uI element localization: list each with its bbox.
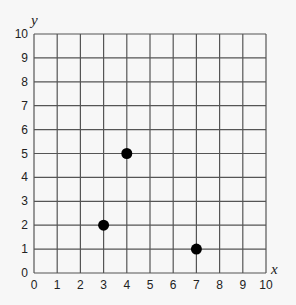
scatter-plot: 012345678910 012345678910 x y	[0, 0, 296, 305]
x-tick-label: 9	[239, 278, 246, 292]
x-tick-label: 6	[170, 278, 177, 292]
x-tick-label: 2	[77, 278, 84, 292]
data-point	[191, 244, 202, 255]
x-tick-label: 8	[216, 278, 223, 292]
grid-lines	[34, 34, 266, 273]
y-tick-label: 6	[21, 123, 28, 137]
x-tick-label: 7	[193, 278, 200, 292]
y-tick-label: 2	[21, 218, 28, 232]
y-tick-label: 4	[21, 170, 28, 184]
x-axis-label: x	[270, 261, 278, 277]
x-tick-labels: 012345678910	[31, 278, 273, 292]
x-tick-label: 5	[147, 278, 154, 292]
y-tick-label: 0	[21, 266, 28, 280]
x-tick-label: 1	[54, 278, 61, 292]
x-tick-label: 0	[31, 278, 38, 292]
data-point	[121, 148, 132, 159]
x-tick-label: 3	[100, 278, 107, 292]
data-point	[98, 220, 109, 231]
y-tick-label: 1	[21, 242, 28, 256]
y-tick-label: 3	[21, 194, 28, 208]
x-tick-label: 4	[123, 278, 130, 292]
y-tick-label: 5	[21, 147, 28, 161]
x-tick-label: 10	[259, 278, 273, 292]
y-tick-label: 10	[15, 27, 29, 41]
y-tick-labels: 012345678910	[15, 27, 29, 280]
y-tick-label: 9	[21, 51, 28, 65]
y-axis-label: y	[29, 12, 38, 28]
y-tick-label: 8	[21, 75, 28, 89]
y-tick-label: 7	[21, 99, 28, 113]
